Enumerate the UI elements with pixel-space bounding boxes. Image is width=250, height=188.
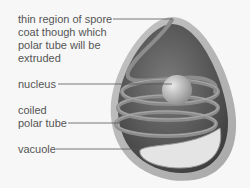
label-vacuole: vacuole [18,143,56,156]
label-nucleus: nucleus [18,78,56,91]
nucleus [162,75,192,105]
label-polar-tube: coiled polar tube [18,104,67,130]
label-spore-coat: thin region of spore coat though which p… [18,13,112,65]
